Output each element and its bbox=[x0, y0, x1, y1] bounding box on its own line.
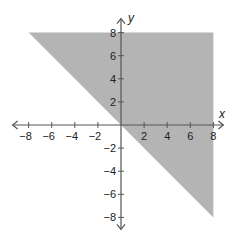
y-tick-label: 4 bbox=[110, 73, 116, 85]
x-tick-label: −4 bbox=[66, 130, 79, 142]
y-tick-label: −6 bbox=[103, 188, 116, 200]
x-tick-label: 8 bbox=[210, 130, 216, 142]
y-tick-label: −2 bbox=[103, 142, 116, 154]
y-tick-label: −4 bbox=[103, 165, 116, 177]
y-tick-label: 8 bbox=[110, 27, 116, 39]
x-tick-label: −6 bbox=[42, 130, 55, 142]
x-axis-label: x bbox=[218, 107, 226, 121]
x-tick-label: 2 bbox=[141, 130, 147, 142]
y-axis-label: y bbox=[127, 11, 135, 25]
x-tick-label: −2 bbox=[89, 130, 102, 142]
y-tick-label: 6 bbox=[110, 50, 116, 62]
y-tick-label: −8 bbox=[103, 211, 116, 223]
coordinate-plane: −8−6−4−22468−8−6−4−22468 x y bbox=[0, 0, 240, 251]
x-tick-label: −8 bbox=[19, 130, 32, 142]
y-tick-label: 2 bbox=[110, 96, 116, 108]
x-tick-label: 4 bbox=[164, 130, 170, 142]
x-tick-label: 6 bbox=[187, 130, 193, 142]
